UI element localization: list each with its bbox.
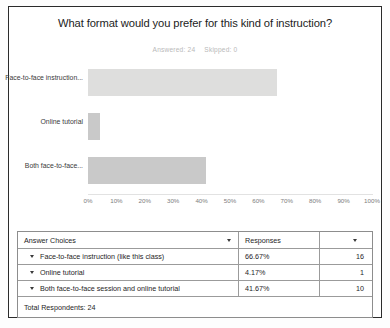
survey-results-screenshot: What format would you prefer for this ki…	[0, 0, 390, 328]
bar[interactable]	[88, 113, 100, 140]
x-axis-tick: 70%	[281, 197, 293, 204]
chevron-down-icon[interactable]	[227, 239, 231, 242]
cell-answer-choice: Online tutorial	[18, 265, 239, 280]
x-axis-tick: 10%	[110, 197, 122, 204]
x-axis-tick: 60%	[252, 197, 264, 204]
table-row: Face-to-face instruction (like this clas…	[18, 249, 372, 265]
header-cell-count[interactable]	[320, 232, 372, 248]
results-table: Answer Choices Responses Face-to-face in…	[17, 231, 373, 318]
x-axis-tick: 0%	[84, 197, 93, 204]
x-axis-tick: 90%	[337, 197, 349, 204]
cell-response-percent: 66.67%	[239, 249, 320, 264]
bar-row: Online tutorial	[88, 113, 372, 140]
total-respondents-row: Total Respondents: 24	[18, 297, 372, 317]
chevron-down-icon[interactable]	[24, 255, 40, 258]
answer-choice-label: Face-to-face instruction (like this clas…	[40, 252, 164, 261]
cell-answer-choice: Face-to-face instruction (like this clas…	[18, 249, 239, 264]
chevron-down-icon[interactable]	[24, 287, 40, 290]
table-row: Both face-to-face session and online tut…	[18, 281, 372, 297]
answered-count: Answered: 24	[153, 46, 196, 53]
x-axis-tick: 40%	[195, 197, 207, 204]
chevron-down-icon[interactable]	[24, 271, 40, 274]
x-axis-tick: 100%	[364, 197, 380, 204]
bar-row: Both face-to-face...	[88, 157, 372, 184]
table-header-row: Answer Choices Responses	[18, 232, 372, 249]
bar-plot-area: Face-to-face instruction...Online tutori…	[88, 63, 372, 193]
answer-choice-label: Online tutorial	[40, 268, 84, 277]
x-axis-tick: 80%	[309, 197, 321, 204]
x-axis-tick: 20%	[139, 197, 151, 204]
header-cell-answer-choices[interactable]: Answer Choices	[18, 232, 239, 248]
cell-response-count: 10	[320, 281, 372, 296]
bar-row: Face-to-face instruction...	[88, 69, 372, 96]
document-frame: What format would you prefer for this ki…	[8, 6, 382, 318]
x-axis-tick: 50%	[224, 197, 236, 204]
table-body: Face-to-face instruction (like this clas…	[18, 249, 372, 297]
chart-title: What format would you prefer for this ki…	[39, 16, 351, 30]
chevron-down-icon[interactable]	[353, 239, 357, 242]
cell-response-count: 16	[320, 249, 372, 264]
x-axis-tick: 30%	[167, 197, 179, 204]
answer-choice-label: Both face-to-face session and online tut…	[40, 284, 180, 293]
cell-answer-choice: Both face-to-face session and online tut…	[18, 281, 239, 296]
x-axis-line	[88, 194, 373, 195]
bar[interactable]	[88, 157, 206, 184]
skipped-count: Skipped: 0	[204, 46, 237, 53]
total-respondents-label: Total Respondents: 24	[24, 303, 96, 312]
chart-subtitle: Answered: 24Skipped: 0	[39, 46, 351, 53]
bar[interactable]	[88, 69, 277, 96]
bar-category-label: Both face-to-face...	[3, 162, 83, 171]
bar-category-label: Online tutorial	[3, 118, 83, 127]
header-cell-responses[interactable]: Responses	[239, 232, 320, 248]
table-row: Online tutorial4.17%1	[18, 265, 372, 281]
chart-panel: What format would you prefer for this ki…	[9, 7, 381, 224]
cell-response-count: 1	[320, 265, 372, 280]
header-label-responses: Responses	[245, 236, 281, 245]
cell-response-percent: 41.67%	[239, 281, 320, 296]
bar-category-label: Face-to-face instruction...	[3, 74, 83, 83]
cell-response-percent: 4.17%	[239, 265, 320, 280]
header-label-answer-choices: Answer Choices	[24, 236, 76, 245]
x-axis-tick-labels: 0%10%20%30%40%50%60%70%80%90%100%	[88, 197, 372, 211]
